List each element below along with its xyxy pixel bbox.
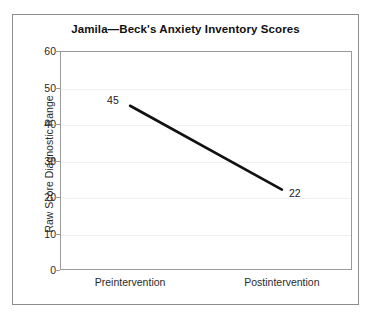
y-tick-label: 20	[16, 191, 56, 203]
y-tick-label: 0	[16, 264, 56, 276]
y-tick-label: 30	[16, 155, 56, 167]
y-tick-label: 50	[16, 82, 56, 94]
data-series-line	[60, 51, 352, 270]
data-point-label: 45	[107, 94, 119, 106]
y-tick-mark	[55, 270, 60, 271]
chart-title: Jamila—Beck's Anxiety Inventory Scores	[12, 23, 359, 35]
y-tick-label: 60	[16, 45, 56, 57]
series-polyline	[130, 106, 282, 190]
y-tick-label: 10	[16, 228, 56, 240]
chart-figure: Jamila—Beck's Anxiety Inventory Scores R…	[0, 0, 375, 321]
x-tick-label: Preintervention	[95, 276, 166, 288]
data-point-label: 22	[289, 187, 301, 199]
y-tick-label: 40	[16, 118, 56, 130]
x-tick-label: Postintervention	[244, 276, 319, 288]
